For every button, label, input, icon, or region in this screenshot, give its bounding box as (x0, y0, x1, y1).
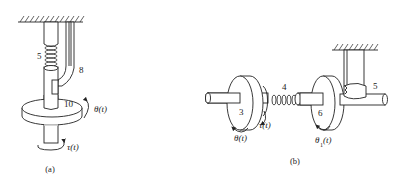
disk-a (22, 95, 82, 125)
label-theta-b: θ(t) (234, 133, 247, 143)
ground-a (18, 16, 84, 22)
label-damper-b: 5 (373, 81, 378, 91)
disk-3-b (206, 76, 264, 130)
label-torque-b: τ(t) (259, 120, 271, 130)
label-spring-b: 4 (282, 82, 287, 92)
clamp-a (52, 80, 58, 94)
disk-6-b (300, 76, 344, 130)
spring-b (272, 95, 296, 105)
mechanical-systems-figure: 5 8 10 θ(t) τ(t) (a) (0, 0, 394, 182)
caption-a: (a) (45, 164, 55, 174)
caption-b: (b) (290, 156, 300, 166)
label-spring-a: 5 (37, 51, 42, 61)
label-theta1-b: θ 1 (t) (315, 135, 332, 148)
label-torque-a: τ(t) (67, 142, 79, 152)
label-disk-a: 10 (64, 99, 74, 109)
shaft-lower-a (44, 125, 58, 143)
damper-b (344, 50, 366, 99)
panel-a: 5 8 10 θ(t) τ(t) (a) (18, 16, 107, 174)
label-bar-a: 8 (79, 65, 84, 75)
panel-b: 3 4 6 5 θ(t) τ(t) θ 1 (t) (b) (206, 44, 388, 166)
theta-arrow-a (84, 100, 89, 118)
svg-text:(t): (t) (323, 135, 332, 145)
label-disk6-b: 6 (318, 108, 323, 118)
ground-b (332, 44, 378, 50)
label-disk3-b: 3 (239, 107, 244, 117)
upper-cylinder-a (44, 22, 58, 47)
label-theta-a: θ(t) (94, 104, 107, 114)
torsion-spring-a (45, 46, 57, 66)
